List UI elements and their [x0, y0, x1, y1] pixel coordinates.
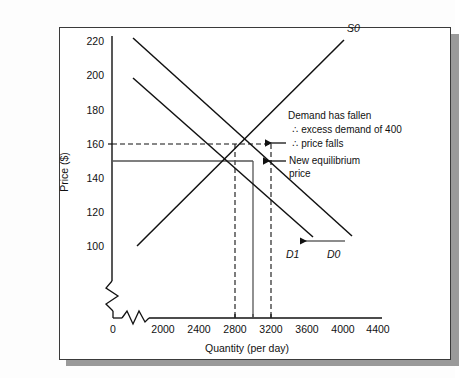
x-tick-label: 4400 [366, 323, 390, 335]
curve-label-D0: D0 [327, 248, 341, 260]
x-tick-label: 4000 [331, 323, 355, 335]
x-tick-label: 2400 [187, 323, 211, 335]
curve-label-D1: D1 [286, 248, 299, 260]
annotation-line: New equilibrium [289, 155, 360, 166]
x-tick-label: 0 [110, 323, 116, 335]
annotation-shift-note: Demand has fallen ∴ excess demand of 400… [288, 110, 402, 149]
y-axis-title: Price ($) [58, 152, 70, 192]
y-tick-group: 220 200 180 160 140 120 100 [86, 35, 112, 252]
demand-curve-D1 [133, 78, 313, 237]
y-tick-label: 120 [86, 206, 104, 218]
x-tick-label: 3600 [295, 323, 319, 335]
annotation-line: Demand has fallen [288, 110, 371, 121]
annotation-new-equilibrium: New equilibrium price [289, 155, 360, 179]
x-tick-label: 2800 [223, 323, 247, 335]
y-tick-label: 180 [86, 104, 104, 116]
annotation-line: price [289, 168, 311, 179]
y-tick-label: 200 [86, 69, 104, 81]
x-tick-label: 2000 [151, 323, 175, 335]
curve-label-S0: S0 [347, 22, 360, 34]
x-axis-break-zigzag [122, 311, 149, 324]
x-tick-label: 3200 [259, 323, 283, 335]
annotation-line: ∴ price falls [292, 138, 343, 149]
y-tick-label: 160 [86, 138, 104, 150]
y-tick-label: 220 [86, 35, 104, 47]
y-axis-break-zigzag [106, 281, 118, 311]
x-tick-group: 0 2000 2400 2800 3200 3600 4000 4400 [110, 314, 390, 335]
y-tick-label: 100 [86, 240, 104, 252]
x-axis-title: Quantity (per day) [205, 342, 289, 354]
y-tick-label: 140 [86, 172, 104, 184]
annotation-line: ∴ excess demand of 400 [292, 124, 402, 135]
demand-curve-D0 [133, 38, 352, 236]
